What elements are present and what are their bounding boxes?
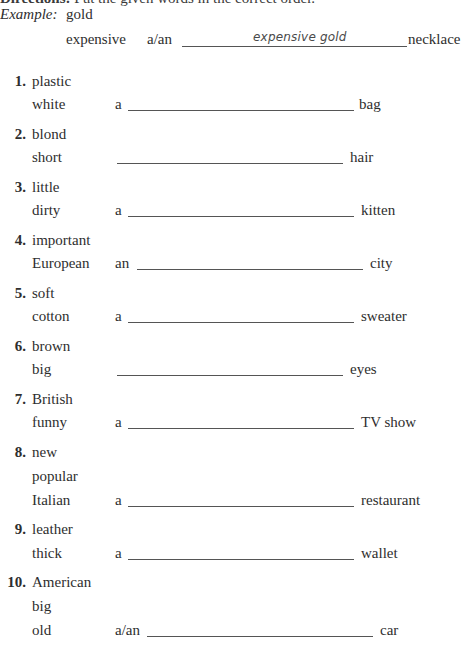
item-word: little (32, 180, 60, 195)
item-noun: kitten (361, 203, 395, 218)
item-word: big (32, 362, 51, 377)
item-noun: wallet (361, 546, 398, 561)
item-number: 5. (0, 286, 26, 301)
answer-blank-8[interactable] (128, 506, 354, 507)
answer-blank-10[interactable] (147, 636, 373, 637)
item-noun: hair (350, 150, 373, 165)
item-word: big (32, 599, 51, 614)
item-word: brown (32, 339, 70, 354)
example-word: expensive (66, 32, 126, 47)
example-label: Example: (0, 7, 57, 22)
item-word: dirty (32, 203, 60, 218)
item-word: cotton (32, 309, 70, 324)
example-noun: necklace (408, 32, 460, 47)
item-number: 4. (0, 233, 26, 248)
item-word: white (32, 97, 65, 112)
item-noun: TV show (361, 415, 416, 430)
item-article: a (115, 415, 122, 430)
answer-blank-6[interactable] (117, 375, 343, 376)
item-number: 7. (0, 392, 26, 407)
example-answer: expensive gold (253, 31, 347, 43)
item-word: blond (32, 127, 66, 142)
item-number: 10. (0, 575, 26, 590)
item-word: thick (32, 546, 62, 561)
item-word: British (32, 392, 73, 407)
answer-blank-7[interactable] (128, 428, 354, 429)
item-noun: sweater (361, 309, 407, 324)
item-word: important (32, 233, 90, 248)
item-word: old (32, 623, 51, 638)
item-article: a (115, 546, 122, 561)
example-answer-line (182, 46, 407, 47)
item-word: leather (32, 522, 73, 537)
item-number: 9. (0, 522, 26, 537)
item-word: plastic (32, 74, 71, 89)
example-word: gold (66, 7, 93, 22)
item-article: a (115, 493, 122, 508)
item-word: American (32, 575, 91, 590)
item-article: a (115, 203, 122, 218)
item-number: 6. (0, 339, 26, 354)
answer-blank-2[interactable] (117, 163, 343, 164)
item-article: a (115, 309, 122, 324)
item-noun: bag (359, 97, 381, 112)
item-word: new (32, 445, 57, 460)
item-word: soft (32, 286, 55, 301)
item-word: funny (32, 415, 67, 430)
answer-blank-3[interactable] (128, 216, 354, 217)
item-article: a (115, 97, 122, 112)
answer-blank-5[interactable] (128, 322, 354, 323)
directions-text: Put the given words in the correct order… (74, 0, 315, 6)
item-noun: city (370, 256, 393, 271)
example-article: a/an (147, 32, 172, 47)
item-word: Italian (32, 493, 70, 508)
answer-blank-4[interactable] (137, 269, 363, 270)
answer-blank-1[interactable] (128, 110, 354, 111)
item-number: 8. (0, 445, 26, 460)
item-noun: car (380, 623, 398, 638)
answer-blank-9[interactable] (128, 559, 354, 560)
item-number: 3. (0, 180, 26, 195)
item-word: short (32, 150, 62, 165)
item-noun: restaurant (361, 493, 420, 508)
item-article: a/an (115, 623, 140, 638)
item-number: 1. (0, 74, 26, 89)
item-article: an (115, 256, 129, 271)
item-word: European (32, 256, 89, 271)
item-number: 2. (0, 127, 26, 142)
item-word: popular (32, 469, 78, 484)
item-noun: eyes (350, 362, 377, 377)
